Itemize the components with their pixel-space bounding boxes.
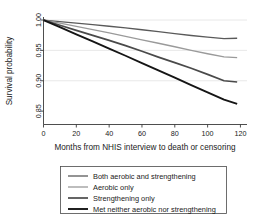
legend-label: Strengthening only xyxy=(93,194,155,203)
series-line xyxy=(44,20,238,58)
legend-label: Both aerobic and strengthening xyxy=(93,172,196,181)
legend-label: Met neither aerobic nor strengthening xyxy=(93,205,216,214)
x-tick-label: 0 xyxy=(42,129,46,138)
y-axis-title: Survival probability xyxy=(5,36,14,106)
y-tick-label: 0.85 xyxy=(34,104,43,118)
x-tick-label: 60 xyxy=(138,129,146,138)
x-tick-label: 40 xyxy=(105,129,113,138)
chart-canvas: 1.000.950.900.85 020406080100120 Surviva… xyxy=(0,0,276,224)
x-tick-label: 20 xyxy=(72,129,80,138)
survival-curve-figure: 1.000.950.900.85 020406080100120 Surviva… xyxy=(0,0,276,224)
x-tick-group: 020406080100120 xyxy=(42,125,247,138)
y-tick-label: 0.90 xyxy=(34,74,43,88)
x-tick-label: 80 xyxy=(171,129,179,138)
legend-label: Aerobic only xyxy=(93,183,134,192)
curve-group xyxy=(44,20,238,104)
y-tick-group: 1.000.950.900.85 xyxy=(34,13,43,118)
y-tick-label: 1.00 xyxy=(34,13,43,27)
x-axis-title: Months from NHIS interview to death or c… xyxy=(54,143,236,152)
series-line xyxy=(44,20,238,104)
y-tick-label: 0.95 xyxy=(34,43,43,57)
x-tick-label: 100 xyxy=(202,129,214,138)
x-tick-label: 120 xyxy=(234,129,246,138)
